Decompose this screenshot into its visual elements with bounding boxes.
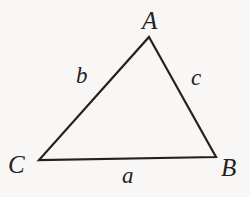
- side-label-c: c: [191, 66, 201, 89]
- side-label-b: b: [76, 64, 88, 87]
- triangle-figure: A B C a b c: [0, 0, 250, 197]
- vertex-label-b: B: [221, 155, 236, 180]
- vertex-label-c: C: [8, 152, 25, 177]
- side-label-a: a: [122, 164, 134, 187]
- vertex-label-a: A: [142, 8, 157, 33]
